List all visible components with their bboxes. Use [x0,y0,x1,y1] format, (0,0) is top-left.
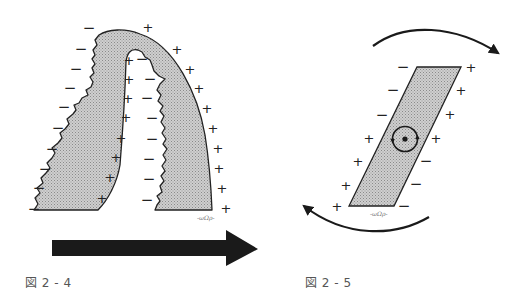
svg-text:+: + [172,42,183,57]
figure-2-5: − − − + + + + + + + + − − − -ωΩρ- [304,30,498,231]
svg-text:−: − [143,150,156,168]
svg-text:+: + [456,83,467,98]
figure-caption-2-5: 図 2 - 5 [305,273,352,290]
svg-text:+: + [341,178,352,193]
svg-text:+: + [221,201,232,216]
svg-text:+: + [217,181,228,196]
svg-text:+: + [124,72,135,87]
svg-text:+: + [123,91,134,106]
svg-text:−: − [410,175,423,193]
svg-text:+: + [185,62,196,77]
svg-text:−: − [141,89,154,107]
svg-text:+: + [364,131,375,146]
svg-text:−: − [141,191,154,209]
figure-caption-2-4: 図 2 - 4 [25,273,72,290]
svg-text:+: + [353,154,364,169]
svg-text:+: + [105,170,116,185]
svg-text:−: − [33,179,46,197]
svg-text:+: + [466,60,477,75]
svg-text:−: − [28,200,41,218]
svg-text:−: − [398,197,411,215]
svg-text:+: + [97,191,108,206]
svg-text:−: − [75,40,88,58]
svg-text:+: + [445,107,456,122]
svg-text:+: + [194,81,205,96]
svg-text:+: + [332,199,343,214]
svg-text:−: − [70,60,83,78]
figure-2-4: − − − − − − − − − − + + + + + + + + − − … [28,19,258,266]
artist-signature: -ωΩρ- [197,214,214,222]
diagram-canvas: − − − − − − − − − − + + + + + + + + − − … [0,0,528,293]
svg-text:+: + [214,161,225,176]
svg-text:+: + [143,20,154,35]
svg-text:−: − [136,50,149,68]
svg-text:−: − [146,130,159,148]
svg-text:−: − [46,140,59,158]
svg-text:+: + [431,131,442,146]
svg-text:+: + [208,121,219,136]
svg-text:−: − [146,109,159,127]
svg-text:−: − [376,106,389,124]
svg-text:+: + [116,131,127,146]
svg-text:−: − [387,81,400,99]
svg-text:−: − [397,58,410,76]
inner-right-negative-charges: − − − − − − − − [136,50,159,209]
svg-text:+: + [202,101,213,116]
svg-text:−: − [143,170,156,188]
svg-text:−: − [58,98,71,116]
svg-text:+: + [124,53,135,68]
svg-text:−: − [420,152,433,170]
svg-text:+: + [213,141,224,156]
svg-text:+: + [111,150,122,165]
artist-signature: -ωΩρ- [370,210,387,218]
svg-text:−: − [52,119,65,137]
svg-text:−: − [64,79,77,97]
svg-text:−: − [39,160,52,178]
svg-text:−: − [144,70,157,88]
curved-arrow-top [373,30,498,53]
svg-text:+: + [121,110,132,125]
svg-text:−: − [83,19,96,37]
direction-arrow [52,230,258,266]
